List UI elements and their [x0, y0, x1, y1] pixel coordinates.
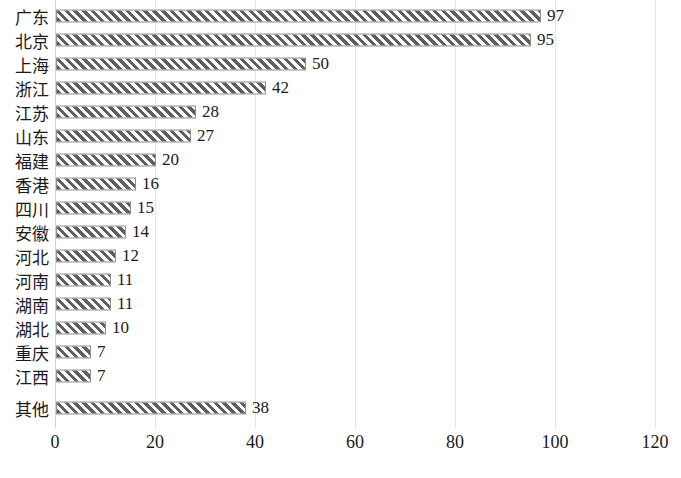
category-label: 江苏: [15, 100, 49, 125]
bar-row: 河南11: [55, 268, 655, 292]
bar-row: 浙江42: [55, 76, 655, 100]
value-label: 7: [97, 366, 106, 386]
category-label: 其他: [15, 396, 49, 421]
bar[interactable]: [56, 402, 246, 415]
bar-row: 山东27: [55, 124, 655, 148]
value-label: 10: [112, 318, 129, 338]
category-label: 浙江: [15, 76, 49, 101]
category-label: 河南: [15, 268, 49, 293]
bar[interactable]: [56, 130, 191, 143]
value-label: 7: [97, 342, 106, 362]
value-label: 12: [122, 246, 139, 266]
x-tick-label: 60: [346, 432, 364, 453]
bar[interactable]: [56, 58, 306, 71]
category-label: 北京: [15, 28, 49, 53]
value-label: 11: [117, 270, 133, 290]
x-tick-label: 40: [246, 432, 264, 453]
x-axis: 020406080100120: [55, 432, 655, 462]
category-label: 上海: [15, 52, 49, 77]
bar[interactable]: [56, 298, 111, 311]
value-label: 14: [132, 222, 149, 242]
bar[interactable]: [56, 322, 106, 335]
value-label: 27: [197, 126, 214, 146]
category-label: 江西: [15, 364, 49, 389]
x-tick-label: 20: [146, 432, 164, 453]
x-tick-label: 0: [51, 432, 60, 453]
bar[interactable]: [56, 226, 126, 239]
bar-row: 河北12: [55, 244, 655, 268]
category-label: 四川: [15, 196, 49, 221]
bar[interactable]: [56, 202, 131, 215]
bar-row: 广东97: [55, 4, 655, 28]
category-label: 河北: [15, 244, 49, 269]
bar[interactable]: [56, 106, 196, 119]
x-tick-label: 100: [542, 432, 569, 453]
category-label: 福建: [15, 148, 49, 173]
value-label: 15: [137, 198, 154, 218]
bar[interactable]: [56, 34, 531, 47]
value-label: 97: [547, 6, 564, 26]
bar-row: 香港16: [55, 172, 655, 196]
bar-row: 四川15: [55, 196, 655, 220]
value-label: 42: [272, 78, 289, 98]
bar-row: 重庆7: [55, 340, 655, 364]
bar-row: 湖北10: [55, 316, 655, 340]
bar[interactable]: [56, 274, 111, 287]
bar-row: 湖南11: [55, 292, 655, 316]
value-label: 11: [117, 294, 133, 314]
bar-row: 江苏28: [55, 100, 655, 124]
plot-area: 广东97北京95上海50浙江42江苏28山东27福建20香港16四川15安徽14…: [55, 0, 655, 428]
bar-row: 上海50: [55, 52, 655, 76]
value-label: 50: [312, 54, 329, 74]
bar-row: 福建20: [55, 148, 655, 172]
category-label: 湖北: [15, 316, 49, 341]
value-label: 20: [162, 150, 179, 170]
category-label: 安徽: [15, 220, 49, 245]
bar[interactable]: [56, 250, 116, 263]
bar-row: 其他38: [55, 396, 655, 420]
gridline-120: [655, 0, 656, 428]
category-label: 山东: [15, 124, 49, 149]
value-label: 28: [202, 102, 219, 122]
bar[interactable]: [56, 10, 541, 23]
bar[interactable]: [56, 82, 266, 95]
bar[interactable]: [56, 154, 156, 167]
bar-chart: 广东97北京95上海50浙江42江苏28山东27福建20香港16四川15安徽14…: [0, 0, 681, 478]
category-label: 重庆: [15, 340, 49, 365]
value-label: 38: [252, 398, 269, 418]
x-tick-label: 80: [446, 432, 464, 453]
category-label: 湖南: [15, 292, 49, 317]
value-label: 16: [142, 174, 159, 194]
bar[interactable]: [56, 370, 91, 383]
bar[interactable]: [56, 178, 136, 191]
category-label: 广东: [15, 4, 49, 29]
category-label: 香港: [15, 172, 49, 197]
x-tick-label: 120: [642, 432, 669, 453]
bar-row: 安徽14: [55, 220, 655, 244]
value-label: 95: [537, 30, 554, 50]
bar-row: 江西7: [55, 364, 655, 388]
bar[interactable]: [56, 346, 91, 359]
bar-row: 北京95: [55, 28, 655, 52]
